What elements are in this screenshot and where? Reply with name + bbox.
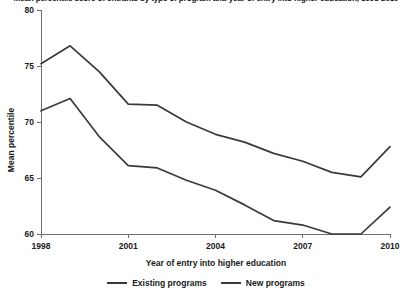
chart-legend: Existing programs New programs: [0, 278, 412, 288]
series-line-existing-programs: [41, 46, 390, 177]
legend-label-existing-programs: Existing programs: [132, 278, 207, 288]
legend-swatch-new-programs: [221, 282, 241, 284]
legend-item-new-programs[interactable]: New programs: [221, 278, 305, 288]
y-tick-label: 75: [25, 61, 35, 71]
x-tick-label: 2007: [293, 241, 312, 251]
y-axis-title: Mean percentile: [6, 108, 16, 173]
x-axis: 19982001200420072010: [32, 234, 400, 251]
y-tick-label: 65: [25, 173, 35, 183]
legend-label-new-programs: New programs: [246, 278, 305, 288]
y-axis: 6065707580: [25, 5, 41, 239]
line-chart-plot: 6065707580 19982001200420072010 Mean per…: [0, 0, 412, 302]
y-tick-label: 70: [25, 117, 35, 127]
legend-item-existing-programs[interactable]: Existing programs: [107, 278, 207, 288]
x-tick-label: 2001: [119, 241, 138, 251]
x-tick-label: 1998: [32, 241, 51, 251]
y-tick-label: 80: [25, 5, 35, 15]
x-axis-title: Year of entry into higher education: [146, 258, 286, 268]
chart-figure: Mean percentile score of entrants by typ…: [0, 0, 412, 302]
series-line-new-programs: [41, 98, 390, 234]
legend-swatch-existing-programs: [107, 282, 127, 284]
x-tick-label: 2004: [206, 241, 225, 251]
x-tick-label: 2010: [381, 241, 400, 251]
series-lines: [41, 46, 390, 234]
y-tick-label: 60: [25, 229, 35, 239]
